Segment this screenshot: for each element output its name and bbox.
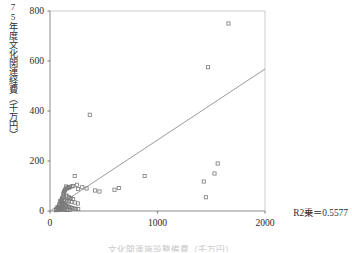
- x-tick-label: 2000: [245, 217, 285, 228]
- x-axis-caption: 文化関連施設整備費（千万円）: [108, 243, 268, 252]
- scatter-plot-figure: 75年度文化関連経費（千万円） 0200400600800 010002000 …: [0, 0, 352, 253]
- y-tick-label: 200: [18, 155, 44, 166]
- data-points-group: [54, 22, 230, 212]
- x-tick-label: 1000: [138, 217, 178, 228]
- r-squared-annotation: R2乗＝0.5577: [293, 205, 348, 219]
- x-tick-label: 0: [30, 217, 70, 228]
- y-tick-label: 400: [18, 105, 44, 116]
- y-tick-label: 0: [18, 205, 44, 216]
- trendline: [50, 69, 265, 211]
- y-tick-label: 800: [18, 5, 44, 16]
- axes-group: [48, 11, 266, 214]
- y-tick-label: 600: [18, 55, 44, 66]
